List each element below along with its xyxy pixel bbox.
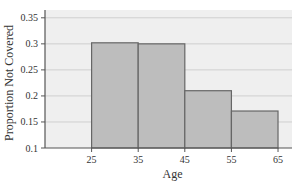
x-tick-label: 65: [273, 154, 283, 165]
x-axis-label: Age: [163, 167, 183, 181]
x-tick-label: 55: [226, 154, 236, 165]
y-tick-label: 0.1: [26, 143, 39, 154]
y-axis-label: Proportion Not Covered: [2, 25, 16, 141]
x-tick-label: 25: [87, 154, 97, 165]
y-tick-label: 0.3: [26, 38, 39, 49]
histogram-bar: [92, 43, 139, 148]
y-axis-ticks: 0.10.150.20.250.30.35: [21, 12, 46, 153]
histogram-bar: [185, 91, 232, 148]
x-tick-label: 35: [133, 154, 143, 165]
histogram-bar: [231, 111, 278, 148]
y-tick-label: 0.25: [21, 64, 39, 75]
y-tick-label: 0.35: [21, 12, 39, 23]
x-tick-label: 45: [180, 154, 190, 165]
histogram-bar: [138, 44, 185, 148]
y-tick-label: 0.2: [26, 90, 39, 101]
y-tick-label: 0.15: [21, 116, 39, 127]
x-axis-ticks: 2535455565: [87, 148, 283, 165]
histogram-chart: 0.10.150.20.250.30.35 2535455565 Age Pro…: [0, 0, 298, 186]
